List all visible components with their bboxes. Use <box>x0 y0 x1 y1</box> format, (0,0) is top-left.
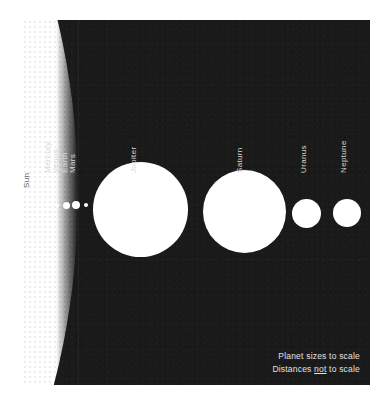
sun-disc <box>22 20 78 385</box>
label-mars: Mars <box>69 154 77 173</box>
planet-saturn <box>203 170 286 253</box>
label-uranus: Uranus <box>300 145 308 173</box>
caption-line-distances: Distances not to scale <box>272 363 360 376</box>
label-neptune: Neptune <box>340 140 348 173</box>
planet-venus <box>63 202 70 209</box>
caption-distances-suffix: to scale <box>327 364 360 374</box>
planet-earth <box>72 201 80 209</box>
caption-distances-prefix: Distances <box>272 364 314 374</box>
planet-neptune <box>333 199 361 227</box>
scale-caption: Planet sizes to scale Distances not to s… <box>272 350 360 376</box>
planet-uranus <box>292 199 321 228</box>
planet-jupiter <box>93 162 188 257</box>
label-venus: Venus <box>52 149 60 173</box>
planet-mars <box>84 203 88 207</box>
caption-line-sizes: Planet sizes to scale <box>272 350 360 363</box>
caption-distances-emphasis: not <box>314 364 326 374</box>
label-jupiter: Jupiter <box>130 147 138 173</box>
label-sun: Sun <box>23 173 31 188</box>
planet-mercury <box>56 204 59 207</box>
solar-system-figure: SunMercuryVenusEarthMarsJupiterSaturnUra… <box>0 0 388 408</box>
label-saturn: Saturn <box>236 147 244 173</box>
chart-canvas: SunMercuryVenusEarthMarsJupiterSaturnUra… <box>22 20 370 385</box>
